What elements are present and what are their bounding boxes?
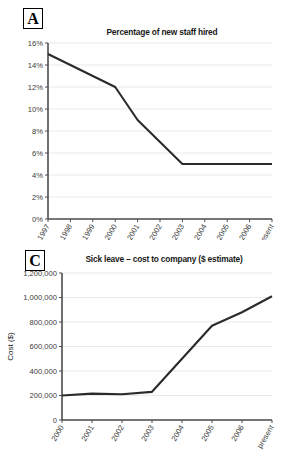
x-tick-label: 2000 <box>103 223 119 241</box>
y-tick-label: 1,200,000 <box>23 270 57 278</box>
chart-panel-a: A Percentage of new staff hired 0%2%4%6%… <box>0 0 288 240</box>
x-tick-label: 1999 <box>80 223 96 241</box>
y-tick-label: 400,000 <box>30 367 57 376</box>
y-tick-label: 0 <box>53 416 57 425</box>
y-tick-label: 0% <box>32 215 43 224</box>
x-tick-label: 2002 <box>109 424 125 443</box>
chart-title-c: Sick leave – cost to company ($ estimate… <box>50 254 278 264</box>
y-tick-label: 14% <box>28 61 43 70</box>
y-tick-label: 10% <box>28 105 43 114</box>
x-tick-label: present <box>255 222 276 240</box>
x-tick-label: 2004 <box>192 223 208 241</box>
y-tick-label: 12% <box>28 83 43 92</box>
x-tick-label: 2004 <box>169 424 185 443</box>
chart-plot-c: 0200,000400,000600,000800,0001,000,0001,… <box>0 270 288 460</box>
chart-plot-a: 0%2%4%6%8%10%12%14%16%199719981999200020… <box>0 40 288 240</box>
panel-letter-c: C <box>25 250 45 271</box>
x-tick-label: 2001 <box>79 424 95 443</box>
x-tick-label: 2002 <box>147 223 163 241</box>
x-tick-label: 2005 <box>215 223 231 241</box>
chart-title-a: Percentage of new staff hired <box>48 27 276 37</box>
y-tick-label: 600,000 <box>30 342 57 351</box>
y-tick-label: 200,000 <box>30 391 57 400</box>
chart-panel-c: C Sick leave – cost to company ($ estima… <box>0 240 288 465</box>
y-tick-label: 16% <box>28 40 43 48</box>
panel-letter-a: A <box>23 8 43 29</box>
y-tick-label: 8% <box>32 127 43 136</box>
x-tick-label: 1998 <box>58 223 74 241</box>
x-tick-label: 2006 <box>229 424 245 443</box>
y-tick-label: 2% <box>32 193 43 202</box>
y-axis-title: Cost ($) <box>6 332 15 361</box>
x-tick-label: 2006 <box>237 223 253 241</box>
x-tick-label: 2000 <box>49 424 65 443</box>
x-tick-label: 1997 <box>35 223 51 241</box>
y-tick-label: 6% <box>32 149 43 158</box>
x-tick-label: present <box>255 423 276 450</box>
y-tick-label: 800,000 <box>30 318 57 327</box>
x-tick-label: 2003 <box>170 223 186 241</box>
y-tick-label: 4% <box>32 171 43 180</box>
x-tick-label: 2001 <box>125 223 141 241</box>
x-tick-label: 2003 <box>139 424 155 443</box>
data-series-line <box>62 296 272 395</box>
x-tick-label: 2005 <box>199 424 215 443</box>
y-tick-label: 1,000,000 <box>23 293 57 302</box>
